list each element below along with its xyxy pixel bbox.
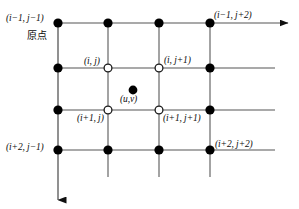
label-bottom-right: (i+2, j+2) <box>215 140 253 150</box>
origin-label-text: 原点 <box>27 30 47 41</box>
node-right-row3 <box>205 105 214 114</box>
node-bottom-3 <box>154 145 163 154</box>
origin-label-cjk: 原点 <box>25 31 49 41</box>
node-i-2-j-1 <box>53 145 62 154</box>
node-i-j <box>104 64 112 72</box>
node-i-plus-1-j-plus-1 <box>155 106 163 114</box>
label-inner-bottom-left: (i+1, j) <box>77 114 104 124</box>
grid-diagram-figure: (i−1, j−1) 原点 (i−1, j+2) (i, j) (i, j+1)… <box>0 0 299 209</box>
label-inner-bottom-right: (i+1, j+1) <box>163 114 201 124</box>
node-top-2 <box>103 18 112 27</box>
grid-row-lines <box>58 68 275 150</box>
label-bottom-left: (i+2, j−1) <box>6 143 44 153</box>
node-top-3 <box>154 18 163 27</box>
node-right-row2 <box>205 63 214 72</box>
node-left-row2 <box>53 63 62 72</box>
node-i-2-j-2 <box>205 145 214 154</box>
label-top-right: (i−1, j+2) <box>214 11 252 21</box>
node-i-plus-1-j <box>104 106 112 114</box>
label-inner-top-left: (i, j) <box>84 57 100 67</box>
label-inner-top-right: (i, j+1) <box>164 56 191 66</box>
label-top-left: (i−1, j−1) <box>6 14 44 24</box>
label-center-uv: (u,v) <box>120 95 137 105</box>
node-bottom-2 <box>103 145 112 154</box>
node-i-j-plus-1 <box>155 64 163 72</box>
node-i-1-j-1 <box>53 18 62 27</box>
node-left-row3 <box>53 105 62 114</box>
